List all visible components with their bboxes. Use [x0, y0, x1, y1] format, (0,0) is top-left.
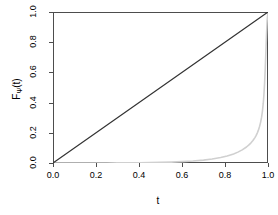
x-tick-mark [139, 163, 140, 167]
x-tick-label: 1.0 [253, 171, 278, 180]
x-tick-label: 0.8 [210, 171, 240, 180]
y-tick-label: 0.0 [29, 148, 38, 178]
y-axis-title-subscript: Ψ [16, 88, 23, 94]
y-tick-mark [49, 72, 53, 73]
x-axis-title: t [128, 196, 188, 206]
y-tick-mark [49, 42, 53, 43]
y-tick-label: 1.0 [29, 0, 38, 27]
x-tick-mark [182, 163, 183, 167]
x-tick-mark [268, 163, 269, 167]
y-tick-mark [49, 103, 53, 104]
y-axis-title: FΨ(t) [11, 59, 25, 119]
y-tick-mark [49, 133, 53, 134]
y-tick-label: 0.8 [29, 27, 38, 57]
x-tick-label: 0.6 [167, 171, 197, 180]
x-tick-label: 0.0 [38, 171, 68, 180]
x-tick-label: 0.2 [81, 171, 111, 180]
y-tick-mark [49, 163, 53, 164]
y-tick-label: 0.4 [29, 87, 38, 117]
y-tick-label: 0.2 [29, 117, 38, 147]
chart-canvas: 0.00.20.40.60.81.0 0.00.20.40.60.81.0 t … [0, 0, 278, 215]
plot-data-layer [53, 12, 268, 163]
x-tick-mark [96, 163, 97, 167]
y-tick-mark [49, 12, 53, 13]
x-tick-mark [53, 163, 54, 167]
y-axis-title-main: F [11, 94, 22, 100]
x-tick-mark [225, 163, 226, 167]
x-tick-label: 0.4 [124, 171, 154, 180]
y-axis-title-tail: (t) [11, 78, 22, 87]
y-tick-label: 0.6 [29, 57, 38, 87]
series-diagonal-line [53, 12, 268, 163]
